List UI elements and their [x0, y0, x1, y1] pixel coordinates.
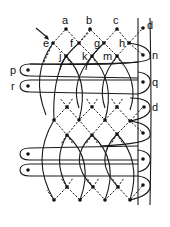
pin-a	[64, 27, 68, 31]
lace-diagram: a b c d e f g h j k m n p q r d	[0, 0, 170, 227]
label-n: n	[152, 49, 158, 61]
pin-ground	[90, 133, 94, 137]
pin-g	[102, 41, 106, 45]
label-j: j	[58, 50, 61, 62]
pin-q	[141, 80, 145, 84]
label-k: k	[82, 50, 88, 62]
pin-edge	[141, 157, 145, 161]
pin-ground	[128, 198, 132, 202]
label-p: p	[10, 64, 16, 76]
pin-p	[26, 68, 30, 72]
pin-ground	[65, 133, 69, 137]
label-g: g	[94, 37, 100, 49]
label-q: q	[152, 76, 158, 88]
label-b: b	[86, 14, 92, 26]
pin-ground	[103, 198, 107, 202]
pin-ground	[77, 118, 81, 122]
label-d-mid: d	[152, 101, 158, 113]
label-r: r	[11, 80, 15, 92]
pin-k	[90, 54, 94, 58]
label-c: c	[113, 14, 119, 26]
pin-ground	[65, 105, 69, 109]
label-d-top: d	[147, 19, 153, 31]
pin-j	[64, 54, 68, 58]
pin-n	[141, 53, 145, 57]
label-m: m	[103, 50, 112, 62]
pin-ground	[115, 132, 119, 136]
pin-ground	[91, 185, 95, 189]
pin-ground	[115, 105, 119, 109]
label-h: h	[119, 37, 125, 49]
pin-ground	[78, 198, 82, 202]
pin-edge	[141, 183, 145, 187]
label-e: e	[43, 37, 49, 49]
pin-b	[88, 27, 92, 31]
pin-edge	[141, 131, 145, 135]
label-f: f	[70, 37, 74, 49]
pin-h	[127, 41, 131, 45]
pin-r	[26, 84, 30, 88]
pin-loop	[26, 152, 30, 156]
pin-ground	[128, 119, 132, 123]
pin-f	[77, 41, 81, 45]
pin-ground	[90, 105, 94, 109]
passive-loop-r	[20, 80, 138, 94]
pin-d-mid	[142, 105, 146, 109]
pin-ground	[116, 185, 120, 189]
pin-ground	[52, 118, 56, 122]
pin-d-top	[141, 26, 145, 30]
pin-m	[115, 54, 119, 58]
pin-ground	[52, 198, 56, 202]
pin-ground	[65, 185, 69, 189]
pin-e	[51, 41, 55, 45]
pin-c	[115, 27, 119, 31]
label-a: a	[62, 14, 69, 26]
pin-ground	[103, 118, 107, 122]
passive-loop-lower-2	[20, 164, 138, 176]
pin-loop	[26, 168, 30, 172]
edge-line-outer	[150, 18, 151, 205]
ground-grid-bottom	[47, 178, 143, 200]
